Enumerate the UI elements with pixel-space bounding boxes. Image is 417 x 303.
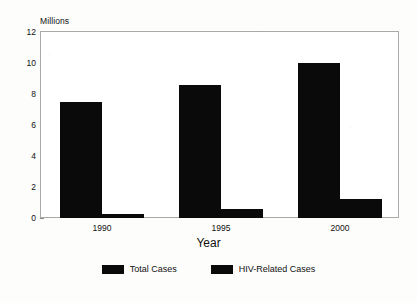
y-axis-tick-label: 10 <box>27 58 36 68</box>
y-axis-tick-label: 4 <box>31 151 36 161</box>
legend-swatch-total-cases <box>102 265 124 274</box>
y-axis-tick-labels: 024681012 <box>18 31 36 218</box>
x-axis-tick-label-1995: 1995 <box>212 223 231 233</box>
bar-hiv-related-cases-1990 <box>102 214 144 218</box>
bar-hiv-related-cases-1995 <box>221 209 263 218</box>
legend-label: HIV-Related Cases <box>239 264 316 274</box>
y-axis-tick-mark <box>40 218 44 219</box>
bar-chart: Millions 024681012 199019952000 Year Tot… <box>0 0 417 303</box>
bar-hiv-related-cases-2000 <box>340 199 382 218</box>
y-axis-tick-label: 2 <box>31 182 36 192</box>
y-axis-unit-label: Millions <box>40 16 69 26</box>
legend-label: Total Cases <box>130 264 177 274</box>
legend-item-total-cases[interactable]: Total Cases <box>102 264 177 274</box>
bar-total-cases-2000 <box>298 63 340 218</box>
y-axis-tick-label: 0 <box>31 213 36 223</box>
plot-area <box>41 32 398 218</box>
chart-legend: Total CasesHIV-Related Cases <box>0 264 417 274</box>
legend-item-hiv-related-cases[interactable]: HIV-Related Cases <box>211 264 316 274</box>
y-axis-tick-label: 12 <box>27 27 36 37</box>
x-axis-tick-label-2000: 2000 <box>331 223 350 233</box>
y-axis-tick-label: 6 <box>31 120 36 130</box>
y-axis-tick-label: 8 <box>31 89 36 99</box>
bar-total-cases-1990 <box>60 102 102 218</box>
bar-total-cases-1995 <box>179 85 221 218</box>
legend-swatch-hiv-related-cases <box>211 265 233 274</box>
x-axis-title: Year <box>0 236 417 250</box>
x-axis-tick-label-1990: 1990 <box>93 223 112 233</box>
